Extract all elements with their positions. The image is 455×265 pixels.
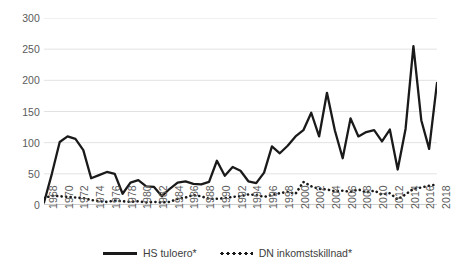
x-tick-label: 1994 <box>252 185 263 209</box>
x-tick-label: 2004 <box>331 185 342 209</box>
x-tick-label: 2002 <box>315 185 326 209</box>
x-tick-label: 2000 <box>300 185 311 209</box>
y-tick-label: 250 <box>2 44 40 55</box>
x-tick-label: 1976 <box>111 185 122 209</box>
x-tick-label: 1970 <box>64 185 75 209</box>
x-tick-label: 1998 <box>284 185 295 209</box>
y-tick-label: 0 <box>2 200 40 211</box>
gridlines <box>44 18 437 205</box>
chart-legend: HS tuloero* DN inkomstskillnad* <box>0 243 455 263</box>
x-tick-label: 1978 <box>127 185 138 209</box>
x-axis: 1968197019721974197619781980198219841986… <box>44 207 437 243</box>
plot-area <box>44 18 437 205</box>
dotted-line-swatch-icon <box>219 252 253 255</box>
y-tick-label: 150 <box>2 107 40 118</box>
x-tick-label: 1996 <box>268 185 279 209</box>
y-tick-label: 100 <box>2 138 40 149</box>
legend-entry-dn-inkomstskillnad[interactable]: DN inkomstskillnad* <box>219 248 352 259</box>
x-tick-label: 1990 <box>221 185 232 209</box>
x-tick-label: 2018 <box>441 185 452 209</box>
y-tick-label: 50 <box>2 169 40 180</box>
legend-entry-hs-tuloero[interactable]: HS tuloero* <box>103 248 197 259</box>
chart-container: 050100150200250300 196819701972197419761… <box>0 0 455 265</box>
x-tick-label: 2006 <box>347 185 358 209</box>
x-tick-label: 1988 <box>205 185 216 209</box>
solid-line-swatch-icon <box>103 252 137 255</box>
x-tick-label: 1968 <box>48 185 59 209</box>
x-tick-label: 2016 <box>425 185 436 209</box>
chart-plot-svg <box>44 18 437 205</box>
legend-label: DN inkomstskillnad* <box>259 248 352 259</box>
x-tick-label: 2012 <box>394 185 405 209</box>
x-tick-label: 1980 <box>142 185 153 209</box>
x-tick-label: 2008 <box>362 185 373 209</box>
x-tick-label: 1984 <box>174 185 185 209</box>
x-tick-label: 1986 <box>189 185 200 209</box>
x-tick-label: 2014 <box>410 185 421 209</box>
y-tick-label: 200 <box>2 75 40 86</box>
x-tick-label: 1992 <box>237 185 248 209</box>
y-axis: 050100150200250300 <box>0 0 40 265</box>
data-series-group <box>44 46 437 202</box>
x-tick-label: 1972 <box>79 185 90 209</box>
legend-label: HS tuloero* <box>143 248 197 259</box>
series-line-1 <box>44 46 437 202</box>
y-tick-label: 300 <box>2 13 40 24</box>
x-tick-label: 2010 <box>378 185 389 209</box>
x-tick-label: 1974 <box>95 185 106 209</box>
x-tick-label: 1982 <box>158 185 169 209</box>
